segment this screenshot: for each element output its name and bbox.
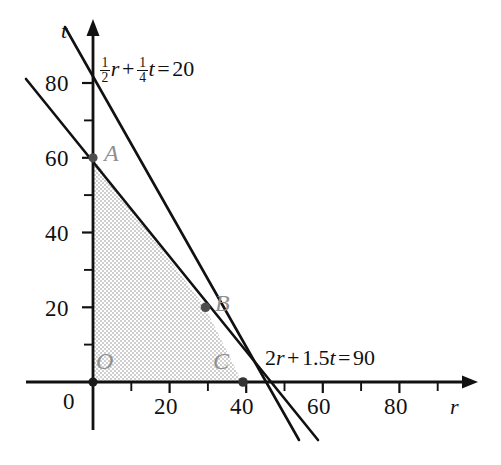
vertex-label-o: O (96, 348, 113, 375)
y-tick-label-80: 80 (45, 71, 69, 97)
equation-1-var-t: t (149, 56, 155, 81)
constraint-line-2 (26, 79, 318, 440)
point-marker-a (88, 153, 97, 162)
equation-2-equals: = (336, 345, 353, 370)
fraction-numerator: 1 (137, 56, 148, 71)
x-tick-label-40: 40 (230, 394, 254, 420)
fraction-one-half: 1 2 (100, 56, 111, 85)
equation-2-coef-t: 1.5 (302, 345, 330, 370)
equation-2-var-r: r (276, 345, 285, 370)
vertex-label-b: B (215, 290, 230, 317)
fraction-one-quarter: 1 4 (137, 56, 148, 85)
equation-1-plus: + (119, 56, 136, 81)
y-tick-label-40: 40 (45, 221, 69, 247)
y-axis-name: t (61, 18, 67, 44)
x-axis-arrowhead (462, 376, 478, 389)
equation-2-plus: + (285, 345, 302, 370)
equation-label-2: 2r+1.5t=90 (265, 345, 375, 371)
x-tick-label-0: 0 (63, 389, 75, 415)
fraction-numerator: 1 (100, 56, 111, 71)
y-tick-label-20: 20 (45, 296, 69, 322)
x-axis-name: r (450, 394, 459, 420)
x-tick-label-20: 20 (154, 394, 178, 420)
equation-1-equals: = (155, 56, 172, 81)
fraction-denominator: 4 (137, 71, 148, 85)
y-tick-label-60: 60 (45, 146, 69, 172)
equation-2-coef-r: 2 (265, 345, 276, 370)
x-tick-label-60: 60 (307, 394, 331, 420)
point-marker-b (201, 303, 211, 313)
vertex-label-c: C (213, 348, 229, 375)
point-marker-origin (88, 377, 97, 386)
graph-figure: 80 60 40 20 0 20 40 60 80 t r A B C O 1 … (0, 0, 501, 465)
equation-2-value: 90 (353, 345, 375, 370)
fraction-denominator: 2 (100, 71, 111, 85)
point-marker-c (238, 377, 248, 387)
equation-1-value: 20 (172, 56, 194, 81)
equation-2-var-t: t (329, 345, 335, 370)
equation-label-1: 1 2 r+ 1 4 t=20 (99, 56, 194, 85)
y-axis-arrowhead (87, 19, 100, 36)
x-tick-label-80: 80 (384, 394, 408, 420)
vertex-label-a: A (104, 140, 119, 167)
